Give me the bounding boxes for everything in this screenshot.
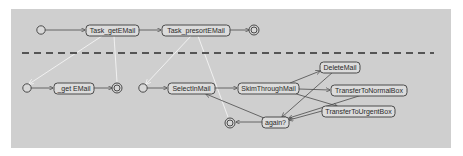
state-label: SelectInMail <box>172 85 211 92</box>
final-state-icon <box>249 25 259 35</box>
state-label: Task_getEMail <box>90 27 136 35</box>
state-label: DeleteMail <box>323 64 357 71</box>
initial-state-icon <box>23 84 31 92</box>
state-transfer-to-normal-box[interactable]: TransferToNormalBox <box>331 85 407 96</box>
state-select-in-mail[interactable]: SelectInMail <box>168 83 215 94</box>
state-transfer-to-urgent-box[interactable]: TransferToUrgentBox <box>322 106 395 117</box>
state-delete-mail[interactable]: DeleteMail <box>320 62 360 73</box>
initial-state-icon <box>37 26 45 34</box>
state-task-getemail[interactable]: Task_getEMail <box>86 25 139 36</box>
state-get-email[interactable]: _get EMail <box>54 83 94 94</box>
activity-diagram: Task_getEMail Task_presortEMail _get EMa… <box>0 0 463 156</box>
state-again-decision[interactable]: again? <box>262 117 289 128</box>
state-skim-through-mail[interactable]: SkimThroughMail <box>238 83 299 94</box>
initial-state-icon <box>139 84 147 92</box>
state-label: again? <box>265 119 286 127</box>
state-label: Task_presortEMail <box>167 27 225 35</box>
state-label: TransferToUrgentBox <box>325 108 392 116</box>
final-state-icon <box>225 118 235 128</box>
final-state-icon <box>112 83 122 93</box>
state-label: SkimThroughMail <box>241 85 296 93</box>
state-label: _get EMail <box>56 85 91 93</box>
state-task-presortemail[interactable]: Task_presortEMail <box>162 25 230 36</box>
state-label: TransferToNormalBox <box>335 87 403 94</box>
